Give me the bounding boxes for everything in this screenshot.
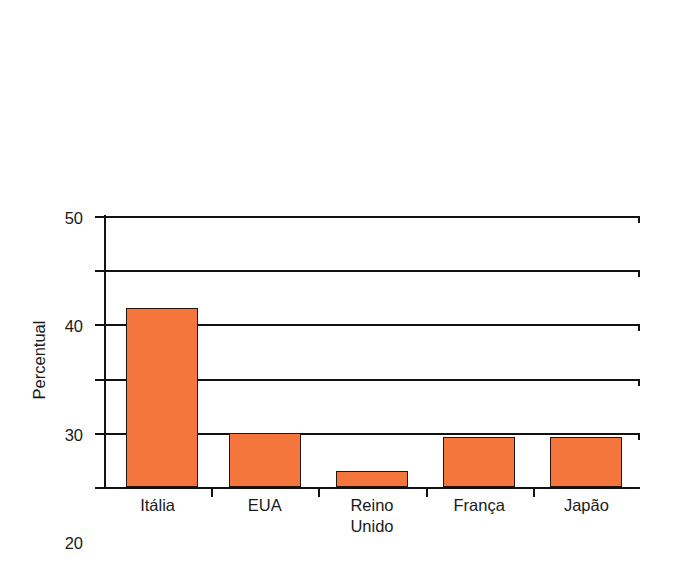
x-axis-line <box>104 487 640 489</box>
y-axis-tick: 10 <box>95 433 104 435</box>
y-axis-tick: 40 <box>95 270 104 272</box>
y-axis-title: Percentual <box>26 232 52 488</box>
gridline <box>104 270 640 272</box>
bar <box>336 471 408 487</box>
gridline <box>104 216 640 218</box>
x-axis-category-label: França <box>426 495 533 516</box>
gridline-endcap <box>638 433 640 440</box>
y-axis-tick-label: 40 <box>65 317 83 336</box>
bar <box>550 437 622 487</box>
y-axis-tick-label: 20 <box>65 534 83 553</box>
y-axis-tick-label: 50 <box>65 209 83 228</box>
gridline-endcap <box>638 324 640 331</box>
y-axis-tick: 50 <box>95 216 104 218</box>
bar <box>443 437 515 487</box>
bar <box>126 308 198 487</box>
x-axis-category-label: Japão <box>533 495 640 516</box>
y-axis-tick: 0 <box>95 487 104 489</box>
y-axis-line <box>104 215 106 488</box>
gridline-endcap <box>638 379 640 386</box>
y-axis-tick-label: 30 <box>65 425 83 444</box>
x-axis-category-label: Itália <box>104 495 211 516</box>
gridline-endcap <box>638 270 640 277</box>
bar-chart: Percentual 50403020100 ItáliaEUAReino Un… <box>0 0 675 569</box>
y-axis-tick: 20 <box>95 379 104 381</box>
plot-area: 50403020100 <box>104 216 640 487</box>
x-axis-category-label: Reino Unido <box>318 495 425 537</box>
bar <box>229 433 301 487</box>
gridline-endcap <box>638 216 640 223</box>
y-axis-tick: 30 <box>95 324 104 326</box>
x-axis-category-label: EUA <box>211 495 318 516</box>
y-axis-title-label: Percentual <box>30 321 49 400</box>
